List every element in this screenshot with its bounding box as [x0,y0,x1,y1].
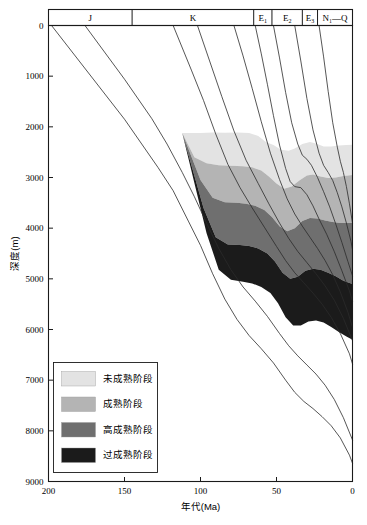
legend: 未成熟阶段成熟阶段高成熟阶段过成熟阶段 [54,363,158,473]
y-tick-label-4: 4000 [26,223,45,233]
strat-label-5: E3 [306,13,315,24]
x-tick-label-0: 200 [42,486,56,496]
y-tick-label-7: 7000 [26,375,45,385]
chart-svg: JKE1E2E3N₁—Q0100020003000400050006000700… [0,0,367,525]
strat-label-6: N₁—Q [322,13,348,23]
strat-label-2: K [190,13,197,23]
legend-swatch-1 [62,372,96,387]
strat-label-1: J [89,13,93,23]
legend-swatch-3 [62,423,96,438]
y-tick-label-8: 8000 [26,426,45,436]
y-tick-label-1: 1000 [26,71,45,81]
y-tick-label-3: 3000 [26,173,45,183]
legend-swatch-4 [62,448,96,463]
stratigraphic-header: JKE1E2E3N₁—Q [49,10,353,26]
x-tick-label-2: 100 [194,486,208,496]
y-tick-label-2: 2000 [26,122,45,132]
legend-label-2: 成熟阶段 [103,398,143,409]
legend-label-3: 高成熟阶段 [103,424,153,435]
burial-history-chart: JKE1E2E3N₁—Q0100020003000400050006000700… [0,0,367,525]
legend-label-4: 过成熟阶段 [103,449,153,460]
x-tick-label-1: 150 [118,486,132,496]
x-tick-label-3: 50 [272,486,282,496]
x-tick-label-4: 0 [350,486,355,496]
y-tick-label-0: 0 [39,21,44,31]
legend-swatch-2 [62,397,96,412]
x-axis-title: 年代(Ma) [181,501,221,512]
y-tick-label-6: 6000 [26,325,45,335]
y-tick-label-5: 5000 [26,274,45,284]
legend-label-1: 未成熟阶段 [103,373,153,384]
strat-label-4: E2 [283,13,292,24]
strat-label-3: E1 [259,13,268,24]
y-axis-title: 深度(m) [9,236,20,270]
